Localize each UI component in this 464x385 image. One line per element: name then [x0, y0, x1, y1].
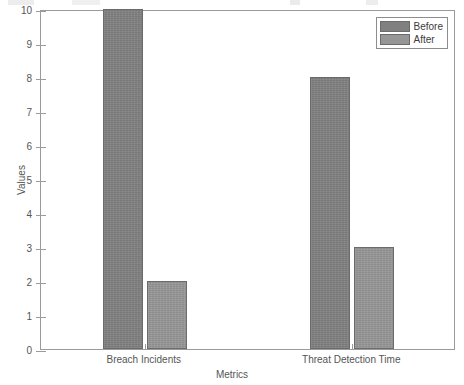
- bar-threat-detection-time-before[interactable]: [310, 77, 350, 349]
- bar-chart-figure: 109876543210 Values Before After Breach …: [0, 0, 464, 385]
- legend-label-before: Before: [414, 21, 443, 32]
- legend-swatch-before-icon: [380, 21, 410, 32]
- x-axis-tick-mark: [352, 344, 353, 349]
- y-axis-tick-mark-inner: [41, 45, 46, 46]
- y-axis-tick-mark-inner: [41, 11, 46, 12]
- y-axis-tick-mark-inner: [41, 317, 46, 318]
- x-category-label: Breach Incidents: [107, 354, 182, 365]
- legend-entry-before[interactable]: Before: [380, 21, 443, 32]
- x-axis-tick-mark: [145, 344, 146, 349]
- y-axis-tick-mark-inner: [41, 147, 46, 148]
- x-axis-label: Metrics: [0, 369, 464, 380]
- bar-threat-detection-time-after[interactable]: [354, 247, 394, 349]
- y-axis-tick-label: 1: [26, 310, 32, 323]
- y-axis-label: Values: [16, 165, 27, 195]
- y-axis-tick-label: 10: [21, 4, 32, 17]
- y-axis-tick-mark-inner: [41, 249, 46, 250]
- y-axis-tick-mark-inner: [41, 351, 46, 352]
- y-axis-tick-label: 8: [26, 72, 32, 85]
- bar-breach-incidents-before[interactable]: [103, 9, 143, 349]
- y-axis-tick-label: 7: [26, 106, 32, 119]
- y-axis-tick-mark-inner: [41, 113, 46, 114]
- y-axis-tick-label: 0: [26, 344, 32, 357]
- y-axis-tick-label: 9: [26, 38, 32, 51]
- x-category-label: Threat Detection Time: [302, 354, 400, 365]
- chart-legend[interactable]: Before After: [376, 17, 448, 49]
- y-axis-tick-label: 6: [26, 140, 32, 153]
- y-axis-tick-mark-inner: [41, 181, 46, 182]
- plot-area: 109876543210: [41, 11, 454, 349]
- legend-label-after: After: [414, 34, 435, 45]
- y-axis-tick-mark-inner: [41, 283, 46, 284]
- y-axis-tick-label: 2: [26, 276, 32, 289]
- bar-breach-incidents-after[interactable]: [147, 281, 187, 349]
- y-axis-tick-label: 4: [26, 208, 32, 221]
- y-axis-tick-mark-inner: [41, 79, 46, 80]
- y-axis-tick-label: 3: [26, 242, 32, 255]
- legend-entry-after[interactable]: After: [380, 34, 443, 45]
- legend-swatch-after-icon: [380, 34, 410, 45]
- scan-crop-artifact: [0, 0, 464, 5]
- y-axis-tick-mark-inner: [41, 215, 46, 216]
- plot-frame: 109876543210 Values Before After: [40, 10, 455, 350]
